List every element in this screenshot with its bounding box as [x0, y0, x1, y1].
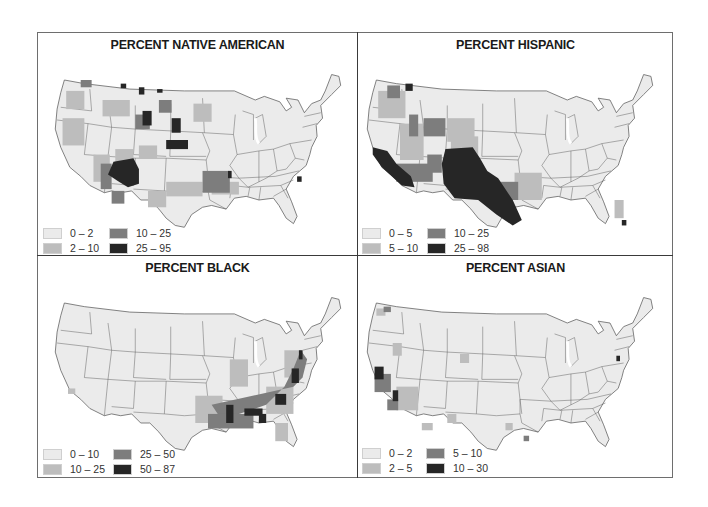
- legend-item: 0 – 2: [362, 447, 412, 459]
- panel-native-american: PERCENT NATIVE AMERICAN 0 – 2 2 – 10 10 …: [38, 33, 357, 255]
- legend-label: 10 – 30: [453, 462, 488, 474]
- legend-label: 2 – 10: [70, 242, 99, 254]
- panel-title: PERCENT NATIVE AMERICAN: [38, 38, 357, 52]
- panel-title: PERCENT BLACK: [38, 261, 357, 275]
- legend-swatch: [43, 464, 62, 475]
- legend-item: 2 – 5: [362, 462, 412, 474]
- legend-item: 0 – 10: [43, 448, 99, 460]
- legend-label: 10 – 25: [454, 227, 489, 239]
- legend-label: 0 – 2: [389, 447, 412, 459]
- legend-item: 25 – 50: [113, 448, 175, 460]
- legend-label: 0 – 5: [389, 227, 412, 239]
- legend-item: 10 – 25: [427, 227, 489, 239]
- legend-swatch: [113, 449, 132, 460]
- legend-swatch: [362, 448, 381, 459]
- us-county-map: [360, 278, 660, 468]
- legend-label: 25 – 50: [140, 448, 175, 460]
- panel-black: PERCENT BLACK 0 – 10 10 – 25 25 – 50 50 …: [38, 256, 357, 478]
- legend-swatch: [426, 463, 445, 474]
- legend-swatch: [426, 448, 445, 459]
- legend-label: 2 – 5: [389, 462, 412, 474]
- legend-label: 5 – 10: [389, 242, 418, 254]
- legend-item: 10 – 30: [426, 462, 488, 474]
- legend-label: 0 – 10: [70, 448, 99, 460]
- legend-swatch: [109, 243, 128, 254]
- us-county-map: [48, 278, 348, 468]
- legend-item: 5 – 10: [426, 447, 482, 459]
- legend-item: 0 – 2: [43, 227, 93, 239]
- panel-hispanic: PERCENT HISPANIC 0 – 5 5 – 10 10 – 25 25…: [358, 33, 673, 255]
- legend-swatch: [43, 449, 62, 460]
- legend-label: 25 – 98: [454, 242, 489, 254]
- legend-swatch: [113, 464, 132, 475]
- legend-label: 10 – 25: [70, 463, 105, 475]
- us-county-map: [48, 55, 348, 245]
- legend-item: 25 – 95: [109, 242, 171, 254]
- panel-title: PERCENT HISPANIC: [358, 38, 673, 52]
- panel-asian: PERCENT ASIAN 0 – 2 2 – 5 5 – 10 10 – 30: [358, 256, 673, 478]
- legend-item: 10 – 25: [109, 227, 171, 239]
- legend-label: 50 – 87: [140, 463, 175, 475]
- legend-swatch: [109, 228, 128, 239]
- legend-item: 50 – 87: [113, 463, 175, 475]
- legend-item: 0 – 5: [362, 227, 412, 239]
- panel-title: PERCENT ASIAN: [358, 261, 673, 275]
- legend-swatch: [362, 228, 381, 239]
- legend-swatch: [362, 243, 381, 254]
- legend-label: 10 – 25: [136, 227, 171, 239]
- legend-item: 5 – 10: [362, 242, 418, 254]
- legend-swatch: [43, 228, 62, 239]
- legend-label: 0 – 2: [70, 227, 93, 239]
- legend-swatch: [427, 228, 446, 239]
- legend-item: 10 – 25: [43, 463, 105, 475]
- legend-swatch: [43, 243, 62, 254]
- legend-item: 2 – 10: [43, 242, 99, 254]
- us-county-map: [360, 55, 660, 245]
- legend-label: 25 – 95: [136, 242, 171, 254]
- legend-item: 25 – 98: [427, 242, 489, 254]
- legend-swatch: [362, 463, 381, 474]
- legend-swatch: [427, 243, 446, 254]
- legend-label: 5 – 10: [453, 447, 482, 459]
